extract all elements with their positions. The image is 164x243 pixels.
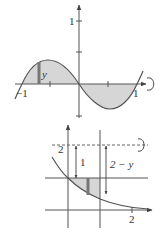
rotation-icon [147,78,154,90]
diagram-canvas: 1 −1 1 y 2 1 2 − y 2 [0,0,164,243]
x-neg-label: −1 [16,87,28,99]
y-tick-label: 1 [69,15,75,27]
lower-shaded-region [79,84,137,109]
bottom-diagram: 2 1 2 − y 2 [45,125,152,228]
strip-label: y [41,68,47,80]
shaded-region [68,178,100,199]
distance-two-minus-y-label: 2 − y [110,158,133,170]
y-tick-label: 2 [58,143,64,155]
x-tick-label: 2 [129,213,135,225]
x-pos-label: 1 [133,87,139,99]
distance-one-label: 1 [80,156,86,168]
top-diagram: 1 −1 1 y [15,5,154,118]
